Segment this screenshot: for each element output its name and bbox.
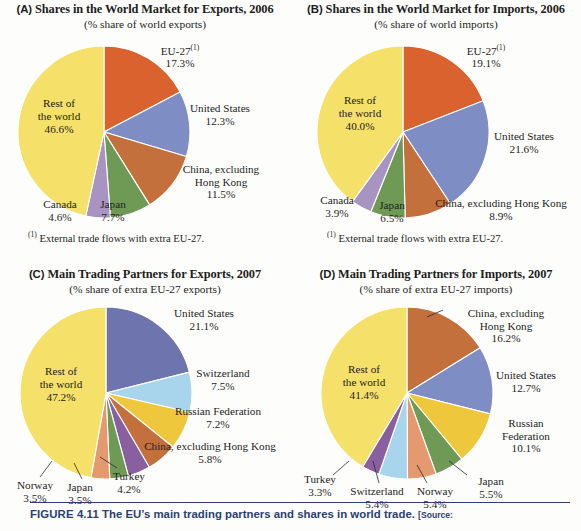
panel-a-label-japan: Japan 7.7%: [89, 198, 137, 223]
figure-number: FIGURE 4.11: [30, 508, 99, 520]
panel-a-letter: (A): [16, 3, 32, 15]
figure-4-11: (A) Shares in the World Market for Expor…: [0, 0, 581, 531]
panel-a-title-text: Shares in the World Market for Exports, …: [35, 2, 274, 16]
panel-b-label-eu27: EU-27(1) 19.1%: [441, 44, 531, 70]
panel-b-footnote: (1) External trade flows with extra EU-2…: [327, 230, 503, 244]
panel-a-label-united-states: United States 12.3%: [170, 102, 270, 127]
panel-b-letter: (B): [307, 3, 323, 15]
figure-caption: FIGURE 4.11 The EU’s main trading partne…: [30, 508, 570, 520]
figure-source-label: [Source:: [418, 510, 453, 520]
panel-b-label-united-states: United States 21.6%: [474, 130, 574, 155]
panel-b-label-canada: Canada 3.9%: [309, 194, 365, 219]
panel-b: (B) Shares in the World Market for Impor…: [291, 0, 581, 258]
panel-d: (D) Main Trading Partners for Imports, 2…: [291, 265, 581, 523]
panel-c-leader-lines: [0, 265, 290, 523]
panel-a-label-eu27: EU-27(1) 17.3%: [135, 44, 225, 70]
panel-b-label-rest-of-world: Rest of the world 40.0%: [323, 94, 397, 133]
panel-a-label-rest-of-world: Rest of the world 46.6%: [22, 97, 96, 136]
panel-b-subtitle: (% share of world imports): [291, 18, 581, 30]
panel-a-subtitle: (% share of world exports): [0, 18, 290, 30]
panel-b-label-china: China, excluding Hong Kong 8.9%: [422, 197, 580, 222]
panel-a-footnote: (1) External trade flows with extra EU-2…: [28, 230, 204, 244]
panel-a-title: (A) Shares in the World Market for Expor…: [0, 2, 290, 17]
panel-b-title: (B) Shares in the World Market for Impor…: [291, 2, 581, 17]
panel-a-label-canada: Canada 4.6%: [33, 198, 87, 223]
panel-c: (C) Main Trading Partners for Exports, 2…: [0, 265, 290, 523]
panel-a: (A) Shares in the World Market for Expor…: [0, 0, 290, 258]
panel-a-label-china: China, excluding Hong Kong 11.5%: [162, 163, 280, 201]
figure-caption-text: The EU’s main trading partners and share…: [102, 508, 415, 520]
panel-b-title-text: Shares in the World Market for Imports, …: [326, 2, 565, 16]
caption-rule: [30, 502, 570, 503]
panel-b-label-japan: Japan 6.5%: [367, 199, 417, 224]
panel-d-leader-lines: [291, 265, 581, 523]
